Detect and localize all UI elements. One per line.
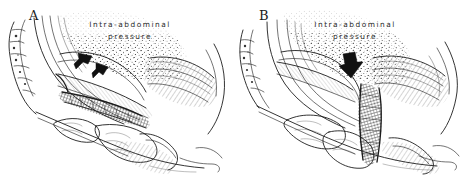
panel-letter-a: A (28, 8, 39, 23)
caption-line2-a: pressure (108, 32, 152, 41)
panel-a: Intra-abdominal pressure A (0, 0, 232, 179)
caption-line1-a: Intra-abdominal (89, 20, 170, 29)
panel-letter-b: B (259, 8, 269, 23)
panel-b: Intra-abdominal pressure B (233, 0, 465, 179)
caption-line1-b: Intra-abdominal (314, 20, 395, 29)
caption-line2-b: pressure (333, 32, 377, 41)
figure-container: Intra-abdominal pressure A (0, 0, 465, 179)
